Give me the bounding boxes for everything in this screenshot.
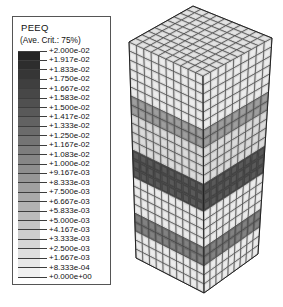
legend-label: +2.500e-03: [49, 245, 90, 253]
mesh-left-face: [129, 42, 204, 293]
legend-tick: [18, 51, 47, 52]
legend-label: +1.083e-02: [49, 151, 90, 159]
legend-label: +1.417e-02: [49, 113, 90, 121]
legend-tick: [18, 229, 47, 230]
legend-label: +5.833e-03: [49, 207, 90, 215]
legend-tick: [18, 182, 47, 183]
legend-tick: [18, 201, 47, 202]
legend-tick: [18, 116, 47, 117]
legend-label: +4.167e-03: [49, 226, 90, 234]
legend-label: +1.583e-02: [49, 94, 90, 102]
legend-label: +1.167e-02: [49, 141, 90, 149]
legend-tick: [18, 126, 47, 127]
legend-tick: [18, 79, 47, 80]
legend-tick: [18, 192, 47, 193]
legend-tick: [18, 248, 47, 249]
legend-tick: [18, 145, 47, 146]
legend-scale: +2.000e-02+1.917e-02+1.833e-02+1.750e-02…: [13, 51, 110, 281]
legend-tick: [18, 220, 47, 221]
legend-label: +1.250e-02: [49, 132, 90, 140]
legend-tick: [18, 69, 47, 70]
legend-label: +0.000e+00: [49, 273, 92, 281]
legend-label: +1.333e-02: [49, 122, 90, 130]
legend-tick: [18, 98, 47, 99]
contour-legend: PEEQ (Ave. Crit.: 75%) +2.000e-02+1.917e…: [12, 16, 111, 285]
legend-label: +5.000e-03: [49, 217, 90, 225]
legend-label: +1.667e-03: [49, 254, 90, 262]
legend-label: +8.333e-03: [49, 179, 90, 187]
legend-tick: [18, 164, 47, 165]
legend-label: +1.917e-02: [49, 56, 90, 64]
legend-tick: [18, 239, 47, 240]
legend-tick: [18, 267, 47, 268]
legend-label: +1.833e-02: [49, 66, 90, 74]
legend-tick: [18, 60, 47, 61]
legend-tick: [18, 173, 47, 174]
legend-tick: [18, 277, 47, 278]
legend-subtitle: (Ave. Crit.: 75%): [20, 35, 81, 45]
legend-label: +6.667e-03: [49, 198, 90, 206]
legend-label: +1.000e-02: [49, 160, 90, 168]
legend-label: +1.500e-02: [49, 104, 90, 112]
legend-tick: [18, 154, 47, 155]
legend-label: +2.000e-02: [49, 47, 90, 55]
legend-label: +3.333e-03: [49, 235, 90, 243]
legend-label: +1.667e-02: [49, 85, 90, 93]
legend-tick: [18, 211, 47, 212]
legend-label: +7.500e-03: [49, 188, 90, 196]
legend-tick: [18, 258, 47, 259]
legend-label: +9.167e-03: [49, 169, 90, 177]
legend-tick: [18, 107, 47, 108]
legend-label: +1.750e-02: [49, 75, 90, 83]
legend-tick: [18, 135, 47, 136]
legend-tick: [18, 88, 47, 89]
legend-label: +8.333e-04: [49, 264, 90, 272]
mesh-right-face: [203, 38, 272, 293]
legend-title: PEEQ: [21, 22, 49, 33]
fea-contour-plot: PEEQ (Ave. Crit.: 75%) +2.000e-02+1.917e…: [0, 0, 283, 307]
